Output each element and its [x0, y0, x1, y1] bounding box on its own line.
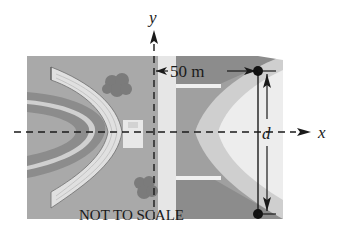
x-axis-label: x: [317, 123, 326, 142]
left-map-panel: [27, 56, 158, 219]
dimension-d-label: d: [262, 124, 271, 143]
dimension-50m-label: 50 m: [170, 62, 204, 81]
not-to-scale-note: NOT TO SCALE: [79, 207, 184, 223]
y-axis-label: y: [147, 8, 157, 27]
diagram-canvas: y x 50 m d: [0, 0, 342, 239]
y-axis-arrowhead-icon: [150, 30, 158, 44]
diagram-figure: y x 50 m d: [0, 0, 342, 239]
